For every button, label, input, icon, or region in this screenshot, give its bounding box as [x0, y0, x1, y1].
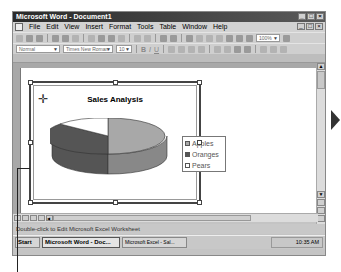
taskbar: Start Microsoft Word - Doc... Microsoft … — [13, 235, 325, 249]
align-right-icon[interactable] — [188, 46, 195, 53]
print-icon[interactable] — [52, 35, 59, 42]
vertical-scroll-thumb[interactable] — [317, 71, 325, 89]
doc-close-button[interactable]: × — [315, 23, 323, 30]
menu-format[interactable]: Format — [109, 22, 131, 32]
clock: 10:35 AM — [296, 239, 319, 245]
resize-handle-sw[interactable] — [28, 200, 33, 205]
decrease-indent-icon[interactable] — [234, 46, 241, 53]
font-color-icon[interactable] — [280, 46, 287, 53]
resize-handle-s[interactable] — [113, 200, 118, 205]
bullets-icon[interactable] — [224, 46, 231, 53]
italic-button[interactable]: I — [149, 46, 151, 53]
menu-insert[interactable]: Insert — [85, 22, 103, 32]
document-icon[interactable] — [15, 23, 23, 31]
new-icon[interactable] — [16, 35, 23, 42]
paste-icon[interactable] — [108, 35, 115, 42]
menu-table[interactable]: Table — [159, 22, 176, 32]
menu-tools[interactable]: Tools — [137, 22, 153, 32]
select-browse-object-button[interactable] — [317, 207, 325, 214]
show-hide-icon[interactable] — [246, 35, 253, 42]
title-bar: Microsoft Word - Document1 _ □ × — [13, 12, 325, 22]
insert-excel-icon[interactable] — [206, 35, 213, 42]
align-left-icon[interactable] — [168, 46, 175, 53]
horizontal-scroll-thumb[interactable] — [53, 215, 251, 221]
formatting-toolbar: Normal▼ Times New Roman▼ 10▼ B I U — [13, 43, 325, 54]
hyperlink-icon[interactable] — [160, 35, 167, 42]
resize-handle-w[interactable] — [28, 140, 33, 145]
menu-edit[interactable]: Edit — [46, 22, 58, 32]
resize-handle-n[interactable] — [113, 80, 118, 85]
numbering-icon[interactable] — [214, 46, 221, 53]
window-title: Microsoft Word - Document1 — [16, 13, 112, 20]
scroll-left-button[interactable]: ◀ — [46, 215, 53, 221]
pie-chart — [50, 118, 170, 178]
menu-file[interactable]: File — [29, 22, 40, 32]
legend-item-oranges: Oranges — [185, 149, 223, 160]
taskbar-excel-button[interactable]: Microsoft Excel - Sal... — [122, 237, 187, 248]
standard-toolbar: 100%▼ — [13, 32, 325, 43]
redo-icon[interactable] — [144, 35, 151, 42]
legend-item-apples: Apples — [185, 138, 223, 149]
border-icon[interactable] — [260, 46, 267, 53]
status-bar: Double-click to Edit Microsoft Excel Wor… — [13, 224, 325, 234]
next-page-button[interactable] — [317, 215, 325, 222]
vertical-scrollbar[interactable]: ▲ ▼ — [316, 63, 325, 228]
align-center-icon[interactable] — [178, 46, 185, 53]
print-preview-icon[interactable] — [62, 35, 69, 42]
print-layout-view-button[interactable] — [30, 215, 37, 221]
document-map-icon[interactable] — [236, 35, 243, 42]
scroll-up-button[interactable]: ▲ — [317, 63, 325, 70]
resize-handle-se[interactable] — [197, 200, 202, 205]
justify-icon[interactable] — [198, 46, 205, 53]
undo-icon[interactable] — [134, 35, 141, 42]
copy-icon[interactable] — [98, 35, 105, 42]
chart-title: Sales Analysis — [34, 95, 196, 104]
chart-legend: Apples Oranges Pears — [182, 136, 226, 172]
increase-indent-icon[interactable] — [244, 46, 251, 53]
system-tray: 10:35 AM — [271, 237, 323, 248]
resize-handle-nw[interactable] — [28, 80, 33, 85]
pointer-arrow-icon — [331, 110, 340, 130]
highlight-icon[interactable] — [270, 46, 277, 53]
save-icon[interactable] — [36, 35, 43, 42]
doc-minimize-button[interactable]: _ — [297, 23, 305, 30]
resize-handle-e[interactable] — [197, 140, 202, 145]
menu-help[interactable]: Help — [213, 22, 227, 32]
legend-item-pears: Pears — [185, 160, 223, 171]
doc-restore-button[interactable]: □ — [306, 23, 314, 30]
horizontal-scrollbar[interactable]: ◀ — [13, 213, 318, 222]
previous-page-button[interactable] — [317, 199, 325, 206]
minimize-button[interactable]: _ — [298, 13, 306, 20]
outline-view-button[interactable] — [38, 215, 45, 221]
menu-window[interactable]: Window — [182, 22, 207, 32]
taskbar-word-button[interactable]: Microsoft Word - Doc... — [42, 237, 120, 248]
format-painter-icon[interactable] — [118, 35, 125, 42]
ruler — [13, 54, 325, 63]
font-size-select[interactable]: 10▼ — [116, 45, 132, 53]
menu-view[interactable]: View — [64, 22, 79, 32]
start-button[interactable]: Start — [15, 237, 40, 248]
drawing-icon[interactable] — [226, 35, 233, 42]
tables-borders-icon[interactable] — [186, 35, 193, 42]
style-select[interactable]: Normal▼ — [16, 45, 60, 53]
maximize-button[interactable]: □ — [307, 13, 315, 20]
insert-table-icon[interactable] — [196, 35, 203, 42]
web-toolbar-icon[interactable] — [170, 35, 177, 42]
close-button[interactable]: × — [316, 13, 324, 20]
office-assistant-icon[interactable] — [283, 35, 290, 42]
spelling-icon[interactable] — [72, 35, 79, 42]
scroll-down-button[interactable]: ▼ — [317, 191, 325, 198]
cut-icon[interactable] — [88, 35, 95, 42]
open-icon[interactable] — [26, 35, 33, 42]
embedded-excel-chart[interactable]: Sales Analysis Apples Oranges Pears — [29, 81, 201, 204]
web-layout-view-button[interactable] — [22, 215, 29, 221]
callout-line-horizontal — [17, 168, 30, 169]
font-select[interactable]: Times New Roman▼ — [63, 45, 113, 53]
resize-handle-ne[interactable] — [197, 80, 202, 85]
columns-icon[interactable] — [216, 35, 223, 42]
menu-bar: File Edit View Insert Format Tools Table… — [13, 22, 325, 32]
callout-line — [17, 168, 18, 272]
zoom-select[interactable]: 100%▼ — [256, 34, 280, 42]
underline-button[interactable]: U — [154, 46, 159, 53]
bold-button[interactable]: B — [141, 46, 146, 53]
